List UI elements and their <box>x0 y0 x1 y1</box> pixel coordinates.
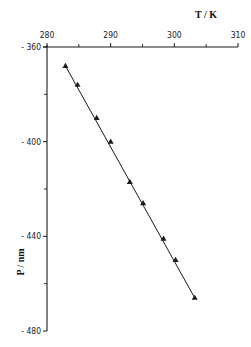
triangle-marker-icon <box>192 295 198 300</box>
x-tick-label: 290 <box>103 30 118 40</box>
triangle-marker-icon <box>127 179 133 184</box>
chart: 280290300310 - 360- 400- 440- 480 T / K … <box>0 0 251 347</box>
y-tick-label: - 360 <box>21 42 41 52</box>
x-tick-label: 310 <box>231 30 246 40</box>
triangle-marker-icon <box>62 63 68 68</box>
triangle-marker-icon <box>108 138 114 143</box>
y-tick-label: - 440 <box>21 231 41 241</box>
y-axis-title: P / nm <box>15 248 26 276</box>
data-series <box>62 63 197 300</box>
y-tick-label: - 400 <box>21 137 41 147</box>
x-axis: 280290300310 <box>40 30 246 47</box>
x-tick-label: 280 <box>40 30 55 40</box>
y-axis: - 360- 400- 440- 480 <box>21 42 47 336</box>
y-tick-label: - 480 <box>21 326 41 336</box>
x-axis-title: T / K <box>195 9 217 20</box>
x-tick-label: 300 <box>167 30 182 40</box>
